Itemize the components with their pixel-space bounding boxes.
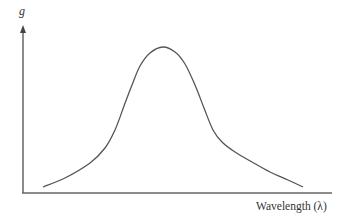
y-axis-label: g bbox=[19, 4, 25, 19]
chart bbox=[0, 0, 348, 222]
bell-curve bbox=[43, 47, 303, 187]
x-axis-label: Wavelength (λ) bbox=[256, 200, 327, 212]
y-axis-arrow-icon bbox=[20, 25, 26, 33]
